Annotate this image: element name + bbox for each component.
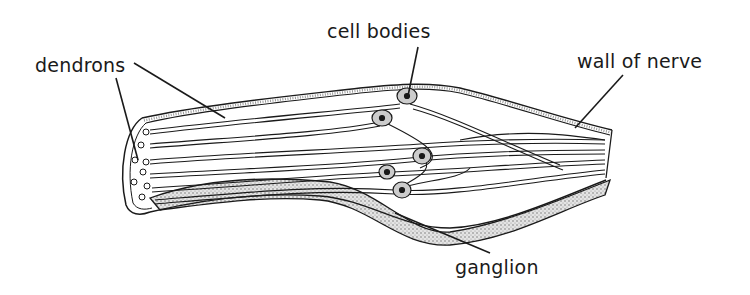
label-ganglion: ganglion <box>455 256 539 278</box>
leader-dendrons-2 <box>116 78 138 160</box>
leader-wall <box>575 75 623 128</box>
leader-dendrons-1 <box>134 63 225 118</box>
label-wall-of-nerve: wall of nerve <box>577 50 702 72</box>
nerve-diagram <box>0 0 750 295</box>
label-dendrons: dendrons <box>35 54 125 76</box>
nerve-cut-end <box>123 118 150 214</box>
label-cell-bodies: cell bodies <box>327 20 431 42</box>
